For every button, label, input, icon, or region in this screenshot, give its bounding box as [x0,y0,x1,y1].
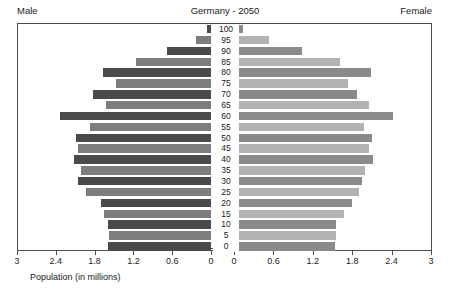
female-bar [234,210,344,218]
axis-tick [95,251,96,255]
age-group-label: 60 [213,111,239,122]
male-bar [196,36,211,44]
pyramid-row: 35 [18,165,431,176]
female-bar [234,188,359,196]
male-bar [93,90,211,98]
axis-tick [17,251,18,255]
male-bar [101,199,211,207]
male-bar [167,47,211,55]
axis-tick [313,251,314,255]
female-bar [234,101,369,109]
female-bar [234,199,352,207]
female-bar [234,47,302,55]
female-bar [234,144,369,152]
age-group-label: 55 [213,122,239,133]
pyramid-row: 5 [18,230,431,241]
female-bar [234,112,393,120]
age-group-label: 95 [213,35,239,46]
pyramid-row: 95 [18,35,431,46]
age-group-label: 90 [213,46,239,57]
axis-tick [273,251,274,255]
pyramid-row: 50 [18,133,431,144]
axis-tick-label: 3 [2,256,32,266]
female-bar [234,134,372,142]
pyramid-row: 15 [18,209,431,220]
axis-tick-label: 0 [219,256,249,266]
age-group-label: 65 [213,100,239,111]
pyramid-row: 80 [18,67,431,78]
age-group-label: 35 [213,165,239,176]
age-group-label: 20 [213,198,239,209]
female-bar [234,68,371,76]
male-bar [74,155,211,163]
female-bar [234,155,373,163]
pyramid-row: 65 [18,100,431,111]
female-side-label: Female [400,5,432,16]
female-bar [234,220,336,228]
axis-tick-label: 1.8 [337,256,367,266]
x-axis: 32.41.81.20.6000.61.21.82.43 [17,251,432,273]
pyramid-row: 45 [18,143,431,154]
pyramid-row: 55 [18,122,431,133]
age-group-label: 15 [213,209,239,220]
female-bar [234,177,362,185]
age-group-label: 30 [213,176,239,187]
age-group-label: 5 [213,230,239,241]
age-group-label: 80 [213,67,239,78]
male-bar [136,58,211,66]
male-bar [76,134,211,142]
pyramid-row: 100 [18,24,431,35]
age-group-label: 100 [213,24,239,35]
axis-tick [172,251,173,255]
age-group-label: 25 [213,187,239,198]
pyramid-row: 85 [18,57,431,68]
male-bar [90,123,211,131]
pyramid-row: 25 [18,187,431,198]
axis-tick [431,251,432,255]
axis-tick [352,251,353,255]
female-bar [234,123,364,131]
bar-rows: 1009590858075706560555045403530252015105… [18,24,431,250]
axis-tick-label: 1.8 [80,256,110,266]
population-pyramid-chart: Male Germany - 2050 Female 1009590858075… [0,0,450,299]
female-bar [234,79,348,87]
female-bar [234,231,336,239]
chart-header: Male Germany - 2050 Female [0,5,450,19]
pyramid-row: 70 [18,89,431,100]
female-bar [234,166,365,174]
male-bar [103,68,211,76]
pyramid-row: 40 [18,154,431,165]
axis-tick-label: 0.6 [157,256,187,266]
x-axis-title: Population (in millions) [30,272,121,282]
axis-tick-label: 1.2 [298,256,328,266]
pyramid-row: 60 [18,111,431,122]
age-group-label: 40 [213,154,239,165]
age-group-label: 50 [213,133,239,144]
male-bar [106,101,211,109]
male-bar [78,144,211,152]
axis-tick-label: 0.6 [258,256,288,266]
female-bar [234,36,269,44]
axis-tick [56,251,57,255]
chart-title: Germany - 2050 [0,5,450,16]
male-bar [78,177,211,185]
female-bar [234,242,335,250]
axis-tick [133,251,134,255]
pyramid-row: 75 [18,78,431,89]
age-group-label: 75 [213,78,239,89]
axis-tick [392,251,393,255]
axis-tick-label: 3 [416,256,446,266]
age-group-label: 70 [213,89,239,100]
pyramid-row: 30 [18,176,431,187]
age-group-label: 0 [213,241,239,252]
male-bar [207,25,211,33]
pyramid-row: 10 [18,219,431,230]
male-bar [81,166,211,174]
female-bar [234,90,357,98]
age-group-label: 45 [213,143,239,154]
male-bar [116,79,211,87]
plot-frame: 1009590858075706560555045403530252015105… [17,23,432,251]
pyramid-row: 90 [18,46,431,57]
pyramid-row: 20 [18,198,431,209]
axis-tick-label: 1.2 [118,256,148,266]
